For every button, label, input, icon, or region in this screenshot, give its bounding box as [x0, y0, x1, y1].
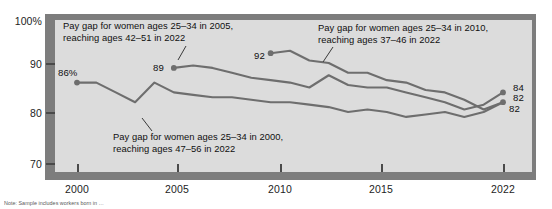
x-axis-label-2000: 2000	[47, 183, 107, 195]
value-label-start-2005: 89	[153, 62, 164, 73]
chart-root: 100% 90 80 70 2000 2005 2010 2015 2022 P…	[0, 0, 552, 209]
x-axis-label-2005: 2005	[147, 183, 207, 195]
series-start-marker-2	[268, 50, 274, 56]
annotation-leader-2	[142, 118, 152, 131]
series-end-marker-2	[500, 99, 506, 105]
x-axis-label-2010: 2010	[250, 183, 310, 195]
series-start-marker-0	[74, 80, 80, 86]
annotation-cohort-2000: Pay gap for women ages 25–34 in 2000, re…	[113, 131, 283, 154]
value-label-end-2010: 82	[513, 92, 524, 103]
annotation-cohort-2005: Pay gap for women ages 25–34 in 2005, re…	[63, 20, 233, 43]
value-label-start-2000: 86%	[58, 67, 78, 78]
annotation-leader-1	[323, 47, 333, 62]
x-axis-label-2022: 2022	[473, 183, 533, 195]
series-line-1	[174, 65, 503, 109]
x-axis-label-2015: 2015	[351, 183, 411, 195]
series-line-2	[271, 51, 503, 110]
annotation-cohort-2010: Pay gap for women ages 25–34 in 2010, re…	[318, 22, 488, 45]
value-label-end-2000: 82	[509, 103, 520, 114]
series-end-marker-1	[500, 90, 506, 96]
value-label-start-2010: 92	[254, 50, 265, 61]
series-start-marker-1	[171, 65, 177, 71]
annotation-leader-0	[178, 46, 186, 60]
chart-footnote: Note: Sample includes workers born in …	[4, 200, 548, 209]
